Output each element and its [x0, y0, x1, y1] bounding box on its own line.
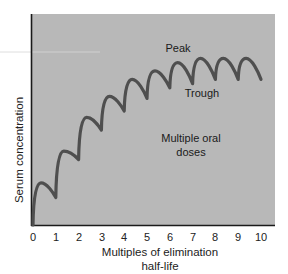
x-tick-4: 4: [121, 231, 127, 243]
x-tick-10: 10: [255, 231, 267, 243]
x-tick-7: 7: [190, 231, 196, 243]
x-tick-5: 5: [144, 231, 150, 243]
x-tick-6: 6: [167, 231, 173, 243]
doses-label-line2: doses: [176, 146, 206, 158]
y-axis-title: Serum concentration: [13, 97, 25, 203]
x-axis-title-line1: Multiples of elimination: [102, 246, 218, 258]
trough-label: Trough: [185, 87, 219, 99]
x-tick-0: 0: [30, 231, 36, 243]
x-tick-8: 8: [212, 231, 218, 243]
x-tick-1: 1: [53, 231, 59, 243]
plot-area: [31, 14, 275, 226]
x-tick-labels: 0 1 2 3 4 5 6 7 8 9 10: [30, 231, 267, 243]
x-axis-title-line2: half-life: [141, 260, 178, 272]
x-tick-3: 3: [99, 231, 105, 243]
peak-label: Peak: [165, 42, 191, 54]
pharmacokinetics-chart: 0 1 2 3 4 5 6 7 8 9 10 Multiples of elim…: [0, 0, 288, 274]
x-tick-9: 9: [235, 231, 241, 243]
doses-label-line1: Multiple oral: [161, 132, 220, 144]
x-tick-2: 2: [76, 231, 82, 243]
